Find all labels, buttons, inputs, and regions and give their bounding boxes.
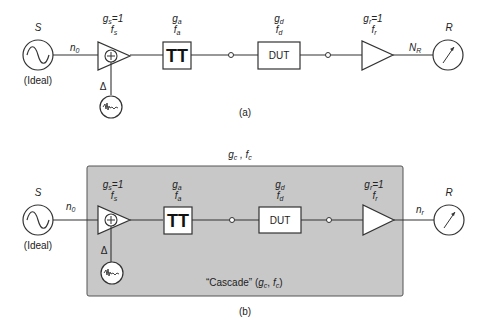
diagram-b: gc , fc S (Ideal) n0 Δ gs=1 fs	[23, 149, 464, 317]
source-sublabel: (Ideal)	[24, 240, 52, 251]
connection-node	[229, 53, 234, 58]
noise-cascade-diagram: S (Ideal) n0 Δ gs=1 fs TT ga fa	[0, 0, 489, 324]
noise-out-label: nr	[416, 204, 425, 216]
connection-node	[326, 53, 331, 58]
receiver-label: R	[445, 187, 452, 198]
connection-node	[327, 218, 332, 223]
amplifier-icon	[362, 41, 393, 70]
signal-source: S (Ideal)	[23, 22, 53, 86]
source-amp-noise-factor: fs	[111, 24, 118, 36]
dut-label: DUT	[270, 215, 291, 226]
noise-out-label: NR	[409, 42, 421, 54]
connection-node	[230, 218, 235, 223]
cascade-label: “Cascade” (gc, fc)	[206, 277, 283, 289]
caption-a: (a)	[239, 107, 251, 118]
receiver-amp-noise-factor: fr	[371, 24, 377, 36]
attenuator: TT ga fa	[163, 13, 191, 69]
caption-b: (b)	[239, 306, 251, 317]
source-amplifier: Δ gs=1 fs	[98, 13, 130, 118]
noise-in-label: n0	[70, 42, 80, 54]
delta-label: Δ	[100, 81, 107, 92]
dut-label: DUT	[269, 50, 290, 61]
receiver-amplifier: gr=1 fr	[362, 13, 393, 70]
delta-label: Δ	[101, 245, 108, 256]
dut-noise-factor: fd	[276, 24, 284, 36]
source-label: S	[35, 187, 42, 198]
receiver-label: R	[445, 22, 452, 33]
receiver-meter: R	[434, 187, 464, 235]
cascade-header: gc , fc	[228, 149, 252, 161]
diagram-a: S (Ideal) n0 Δ gs=1 fs TT ga fa	[23, 13, 463, 118]
source-label: S	[35, 22, 42, 33]
noise-in-label: n0	[66, 201, 76, 213]
attenuator-symbol: TT	[167, 211, 189, 231]
signal-source: S (Ideal)	[23, 187, 53, 251]
attenuator-symbol: TT	[166, 46, 188, 66]
dut: DUT gd fd	[258, 13, 300, 69]
receiver-meter: R	[433, 22, 463, 70]
source-sublabel: (Ideal)	[24, 75, 52, 86]
attenuator-noise-factor: fa	[174, 24, 181, 36]
